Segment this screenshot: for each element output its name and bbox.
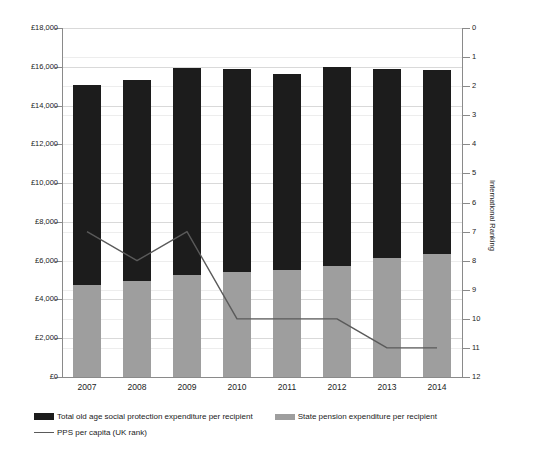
right-axis-label-10: 10 (472, 315, 480, 323)
x-axis-label-2013: 2013 (362, 382, 412, 392)
x-axis-label-2010: 2010 (212, 382, 262, 392)
left-axis-label-9: £18,000 (31, 24, 58, 32)
right-axis-label-1: 1 (472, 53, 476, 61)
legend-item-pps-per-capita: PPS per capita (UK rank) (34, 428, 147, 437)
x-axis-label-2009: 2009 (162, 382, 212, 392)
legend-label-total-expenditure: Total old age social protection expendit… (57, 412, 253, 421)
right-axis-tick-8 (463, 261, 470, 262)
right-axis-label-11: 11 (472, 344, 480, 352)
legend-row-1: Total old age social protection expendit… (34, 412, 514, 421)
right-axis-label-6: 6 (472, 199, 476, 207)
right-axis-tick-9 (463, 290, 470, 291)
legend-row-2: PPS per capita (UK rank) (34, 428, 514, 437)
left-axis-label-1: £2,000 (35, 334, 58, 342)
left-axis-label-0: £0 (50, 373, 58, 381)
left-axis-label-4: £8,000 (35, 218, 58, 226)
pps-rank-polyline (87, 232, 437, 348)
x-axis-label-2011: 2011 (262, 382, 312, 392)
left-axis-label-3: £6,000 (35, 257, 58, 265)
right-axis-label-12: 12 (472, 373, 480, 381)
right-axis-tick-0 (463, 28, 470, 29)
left-axis-label-5: £10,000 (31, 179, 58, 187)
x-axis-label-2012: 2012 (312, 382, 362, 392)
right-axis-tick-6 (463, 203, 470, 204)
chart-legend: Total old age social protection expendit… (34, 412, 514, 444)
right-axis-label-4: 4 (472, 140, 476, 148)
left-axis-label-8: £16,000 (31, 63, 58, 71)
right-axis-label-2: 2 (472, 82, 476, 90)
x-axis-label-2008: 2008 (112, 382, 162, 392)
grey-line-swatch-icon (34, 429, 54, 436)
right-axis-tick-4 (463, 144, 470, 145)
left-axis-label-7: £14,000 (31, 102, 58, 110)
x-axis-label-2014: 2014 (412, 382, 462, 392)
chart-root: £0£2,000£4,000£6,000£8,000£10,000£12,000… (0, 0, 540, 461)
legend-label-state-pension: State pension expenditure per recipient (298, 412, 437, 421)
legend-label-pps-per-capita: PPS per capita (UK rank) (57, 428, 147, 437)
black-bar-swatch-icon (34, 413, 54, 420)
right-axis-tick-11 (463, 348, 470, 349)
right-axis-tick-3 (463, 115, 470, 116)
right-axis-label-5: 5 (472, 169, 476, 177)
right-axis-label-7: 7 (472, 228, 476, 236)
right-axis-tick-12 (463, 377, 470, 378)
left-axis-label-2: £4,000 (35, 295, 58, 303)
right-axis-title: International Ranking (488, 180, 497, 251)
left-axis-label-6: £12,000 (31, 140, 58, 148)
legend-item-state-pension: State pension expenditure per recipient (275, 412, 437, 421)
x-axis-label-2007: 2007 (62, 382, 112, 392)
right-axis-tick-10 (463, 319, 470, 320)
right-axis-label-3: 3 (472, 111, 476, 119)
right-axis-label-0: 0 (472, 24, 476, 32)
grey-bar-swatch-icon (275, 414, 295, 420)
legend-item-total-expenditure: Total old age social protection expendit… (34, 412, 253, 421)
right-axis-label-8: 8 (472, 257, 476, 265)
right-axis-tick-7 (463, 232, 470, 233)
pps-rank-line-series (62, 28, 462, 378)
right-axis-label-9: 9 (472, 286, 476, 294)
right-axis-tick-1 (463, 57, 470, 58)
right-axis-tick-2 (463, 86, 470, 87)
right-axis-tick-5 (463, 173, 470, 174)
